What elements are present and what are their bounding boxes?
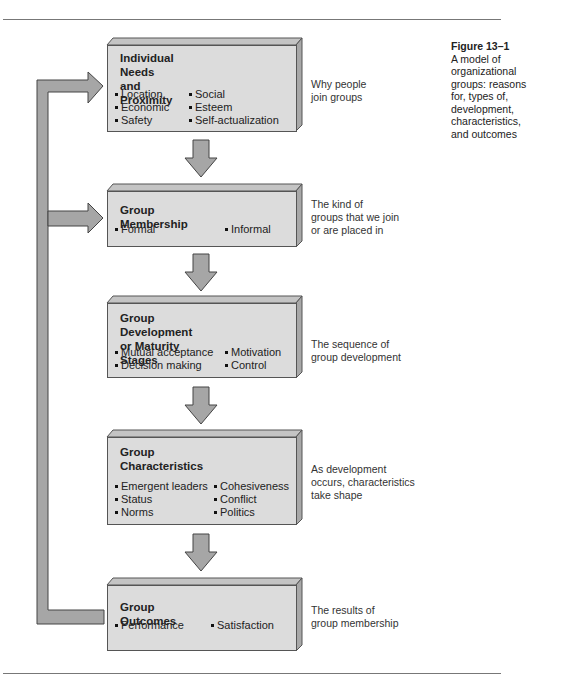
figure-label: Figure 13–1	[451, 40, 563, 53]
figure-caption: Figure 13–1 A model of organizational gr…	[451, 40, 563, 140]
list-item: Self-actualization	[189, 114, 279, 127]
list-item: Status	[115, 493, 152, 506]
box-note: The kind of groups that we join or are p…	[311, 198, 399, 237]
down-arrow-1	[185, 140, 217, 177]
note-line: group development	[311, 351, 401, 364]
down-arrow-2	[185, 254, 217, 291]
box-title-line: Group Development	[120, 311, 192, 339]
note-line: The sequence of	[311, 338, 401, 351]
list-item: Social	[189, 88, 225, 101]
feedback-loop-arrow	[37, 72, 104, 624]
note-line: occurs, characteristics	[311, 476, 415, 489]
box-note: The sequence of group development	[311, 338, 401, 364]
note-line: or are placed in	[311, 224, 399, 237]
list-item: Decision making	[115, 359, 202, 372]
down-arrow-4	[185, 534, 217, 571]
box-title-line: Characteristics	[120, 459, 203, 473]
list-item: Formal	[115, 223, 155, 236]
down-arrow-3	[185, 387, 217, 424]
list-item: Politics	[214, 506, 255, 519]
list-item: Norms	[115, 506, 153, 519]
caption-line: development,	[451, 103, 563, 116]
list-item: Conflict	[214, 493, 257, 506]
list-item: Satisfaction	[211, 619, 274, 632]
note-line: Why people	[311, 78, 366, 91]
note-line: The kind of	[311, 198, 399, 211]
box-note: As development occurs, characteristics t…	[311, 463, 415, 502]
feedback-arrow-membership	[48, 203, 103, 233]
note-line: take shape	[311, 489, 415, 502]
note-line: The results of	[311, 604, 399, 617]
list-item: Location	[115, 88, 163, 101]
list-item: Cohesiveness	[214, 480, 289, 493]
list-item: Informal	[225, 223, 271, 236]
caption-line: organizational	[451, 65, 563, 78]
list-item: Control	[225, 359, 266, 372]
list-item: Mutual acceptance	[115, 346, 213, 359]
note-line: groups that we join	[311, 211, 399, 224]
box-title-line: Group	[120, 445, 203, 459]
box-title-line: Individual Needs	[120, 51, 174, 79]
note-line: join groups	[311, 91, 366, 104]
caption-line: groups: reasons	[451, 78, 563, 91]
caption-line: for, types of,	[451, 90, 563, 103]
box-note: Why people join groups	[311, 78, 366, 104]
list-item: Emergent leaders	[115, 480, 208, 493]
caption-line: A model of	[451, 53, 563, 66]
list-item: Economic	[115, 101, 169, 114]
note-line: group membership	[311, 617, 399, 630]
note-line: As development	[311, 463, 415, 476]
list-item: Performance	[115, 619, 184, 632]
caption-line: characteristics,	[451, 115, 563, 128]
caption-line: and outcomes	[451, 128, 563, 141]
list-item: Motivation	[225, 346, 281, 359]
box-note: The results of group membership	[311, 604, 399, 630]
list-item: Esteem	[189, 101, 232, 114]
list-item: Safety	[115, 114, 152, 127]
